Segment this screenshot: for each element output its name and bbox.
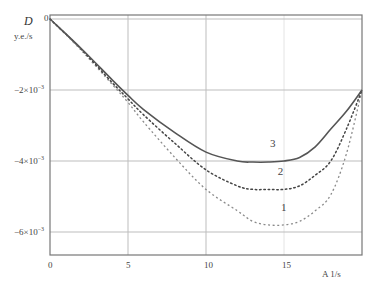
- line-chart: 0510150−2×10−3−4×10−3−6×10−3 D y.e./s A …: [0, 0, 380, 287]
- x-tick-label: 0: [48, 260, 53, 270]
- x-tick-label: 15: [282, 260, 292, 270]
- curve-label-3: 3: [270, 137, 276, 149]
- y-tick-label: −6×10−3: [14, 226, 44, 237]
- x-tick-label: 10: [204, 260, 214, 270]
- x-tick-label: 5: [126, 260, 131, 270]
- y-tick-label: −2×10−3: [14, 84, 44, 95]
- curve-label-1: 1: [281, 201, 287, 213]
- y-tick-label: −4×10−3: [14, 155, 44, 166]
- y-axis-label: D: [23, 14, 33, 28]
- grid-lines: [50, 15, 362, 255]
- curve-label-2: 2: [278, 165, 284, 177]
- y-tick-label: 0: [44, 13, 49, 23]
- y-axis-unit: y.e./s: [14, 31, 33, 41]
- x-axis-label: A 1/s: [322, 269, 341, 279]
- tick-labels: 0510150−2×10−3−4×10−3−6×10−3: [14, 13, 292, 270]
